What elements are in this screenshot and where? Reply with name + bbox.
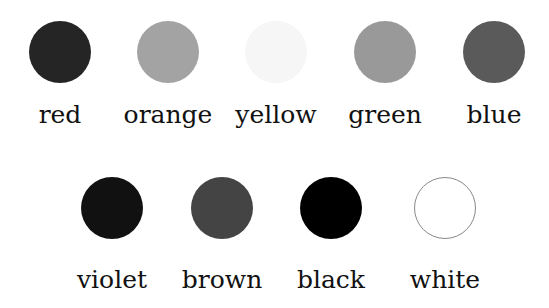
swatch-label: violet	[57, 265, 167, 295]
swatch-blue: blue	[439, 21, 549, 83]
circle-icon	[29, 21, 91, 83]
circle-icon	[463, 21, 525, 83]
swatch-black: black	[276, 177, 386, 239]
swatch-label: yellow	[221, 100, 331, 130]
swatch-white: white	[390, 177, 500, 239]
swatch-orange: orange	[113, 21, 223, 83]
swatch-green: green	[330, 21, 440, 83]
circle-icon	[191, 177, 253, 239]
circle-icon	[354, 21, 416, 83]
swatch-label: black	[276, 265, 386, 295]
swatch-violet: violet	[57, 177, 167, 239]
circle-icon	[137, 21, 199, 83]
circle-icon	[81, 177, 143, 239]
swatch-red: red	[5, 21, 115, 83]
circle-icon	[300, 177, 362, 239]
swatch-label: blue	[439, 100, 549, 130]
swatch-label: white	[390, 265, 500, 295]
swatch-label: green	[330, 100, 440, 130]
swatch-label: brown	[167, 265, 277, 295]
swatch-yellow: yellow	[221, 21, 331, 83]
circle-icon	[414, 177, 476, 239]
swatch-brown: brown	[167, 177, 277, 239]
circle-icon	[245, 21, 307, 83]
swatch-label: red	[5, 100, 115, 130]
swatch-label: orange	[113, 100, 223, 130]
